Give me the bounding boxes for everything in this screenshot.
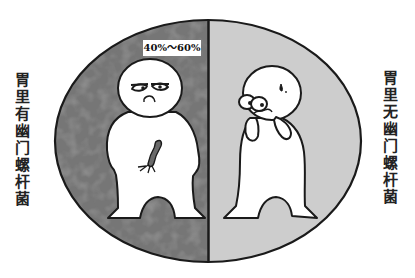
label-char: 门 [383, 138, 398, 155]
split-ellipse-diagram [0, 0, 415, 278]
percentage-badge: 40%～60% [143, 40, 201, 56]
label-char: 螺 [383, 155, 398, 172]
label-char: 门 [15, 140, 30, 157]
label-char: 菌 [15, 191, 30, 208]
label-char: 杆 [383, 172, 398, 189]
label-char: 无 [383, 104, 398, 121]
left-panel-label: 胃 里 有 幽 门 螺 杆 菌 [12, 72, 32, 208]
label-char: 胃 [383, 70, 398, 87]
label-char: 里 [15, 89, 30, 106]
comparison-figure: 40%～60% 胃 里 有 幽 门 螺 杆 菌 胃 里 无 幽 门 螺 杆 菌 [0, 0, 415, 278]
label-char: 里 [383, 87, 398, 104]
label-char: 幽 [15, 123, 30, 140]
label-char: 菌 [383, 189, 398, 206]
label-char: 螺 [15, 157, 30, 174]
label-char: 有 [15, 106, 30, 123]
label-char: 杆 [15, 174, 30, 191]
label-char: 胃 [15, 72, 30, 89]
label-char: 幽 [383, 121, 398, 138]
right-panel-label: 胃 里 无 幽 门 螺 杆 菌 [380, 70, 400, 206]
